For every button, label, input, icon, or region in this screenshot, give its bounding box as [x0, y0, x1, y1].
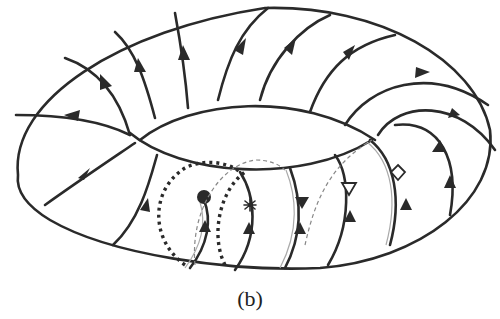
filled-circle-marker: [197, 190, 211, 204]
dotted-orbit: [159, 162, 240, 265]
arrow-up-icon: [284, 38, 296, 55]
streamline: [190, 200, 208, 268]
streamline: [328, 155, 346, 265]
streamline: [235, 172, 253, 270]
torus-inner-lower-edge: [130, 133, 372, 169]
torus-outer-outline: [18, 8, 491, 269]
streamline: [113, 155, 157, 245]
arrow-down-icon: [444, 175, 456, 188]
arrow-right-icon: [448, 108, 460, 118]
arrow-right-icon: [415, 67, 430, 78]
star-marker: [244, 199, 256, 211]
arrow-down-icon: [294, 222, 306, 234]
streamline: [260, 15, 330, 100]
torus-diagram: [0, 0, 500, 319]
arrow-down-icon: [400, 198, 412, 210]
torus-inner-upper-edge: [140, 106, 375, 140]
streamline: [345, 83, 488, 125]
open-triangle-marker: [342, 183, 356, 195]
streamline-ghost: [367, 142, 392, 245]
dotted-orbit: [218, 172, 245, 265]
streamline-ghost: [185, 202, 203, 268]
filled-triangle-up-marker: [432, 140, 446, 152]
streamline: [45, 143, 135, 205]
streamline: [378, 110, 495, 150]
figure-caption: (b): [0, 286, 500, 312]
arrow-up-icon: [100, 74, 112, 90]
